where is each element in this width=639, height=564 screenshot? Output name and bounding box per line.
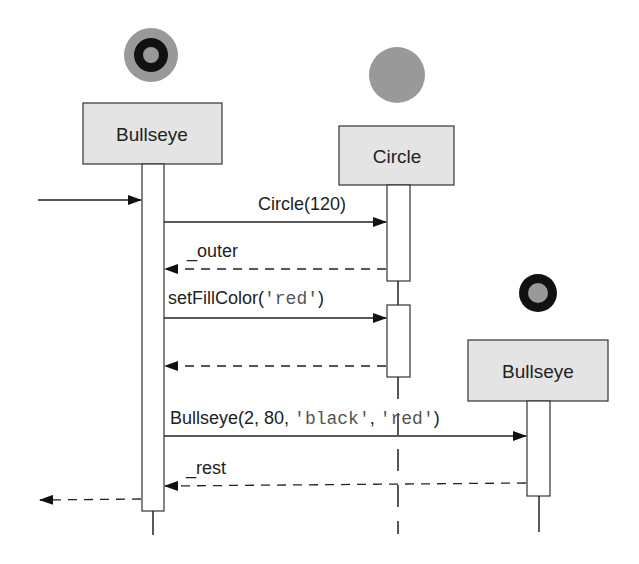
sequence-diagram: Bullseye Circle Bullseye Circle(120) _ou… [0,0,639,564]
bullseye-black-outer-icon [519,274,557,312]
activation-bar [142,164,164,511]
message-return-rest: _rest [165,458,526,486]
message-label: _rest [185,458,226,479]
message-label: Bullseye(2, 80, 'black', 'red') [170,408,440,429]
message-circle-constructor: Circle(120) [164,194,386,222]
message-bullseye-constructor: Bullseye(2, 80, 'black', 'red') [164,408,526,436]
participant-label: Circle [373,146,422,167]
participant-label: Bullseye [502,361,574,382]
message-set-fill-color: setFillColor('red') [164,288,386,318]
activation-bar [527,401,550,496]
participant-circle: Circle [339,47,454,534]
message-label: _outer [186,241,238,262]
activation-bar [387,305,410,377]
gray-circle-icon [369,47,425,103]
bullseye-gray-outer-icon [124,28,178,82]
message-external-return [40,499,141,500]
participant-label: Bullseye [116,124,188,145]
message-label: setFillColor('red') [168,288,324,309]
message-label: Circle(120) [258,194,346,214]
participant-bullseye-2: Bullseye [468,274,608,532]
message-return-outer: _outer [165,241,386,269]
activation-bar [387,185,410,281]
